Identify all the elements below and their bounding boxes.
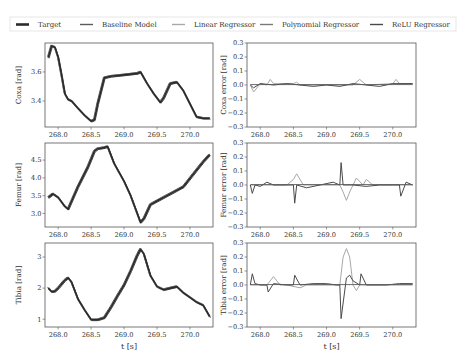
x-tick-label: 269.0 bbox=[317, 231, 336, 239]
y-tick-label: −0.2 bbox=[227, 109, 243, 117]
axes-frame bbox=[45, 43, 213, 127]
y-tick-label: 3 bbox=[37, 253, 41, 261]
series-line bbox=[48, 45, 209, 120]
x-tick-label: 268.0 bbox=[251, 131, 270, 139]
y-tick-label: 3.0 bbox=[31, 210, 42, 218]
x-tick-label: 270.0 bbox=[383, 331, 402, 339]
y-axis-label: Femur error [rad] bbox=[219, 152, 228, 217]
subplot-tibia-error: 268.0268.5269.0269.5270.00.30.20.10.0−0.… bbox=[219, 239, 416, 351]
x-tick-label: 270.0 bbox=[180, 131, 199, 139]
x-tick-label: 268.5 bbox=[82, 331, 101, 339]
y-tick-label: 0.3 bbox=[233, 139, 244, 147]
x-tick-label: 270.0 bbox=[180, 231, 199, 239]
plot-area bbox=[48, 146, 211, 223]
y-tick-label: 0.0 bbox=[233, 181, 244, 189]
x-tick-label: 269.0 bbox=[115, 131, 134, 139]
legend-label: Baseline Model bbox=[102, 21, 157, 29]
series-line bbox=[48, 146, 209, 222]
x-axis-label: t [s] bbox=[121, 342, 137, 351]
y-axis-label: Tibia [rad] bbox=[14, 266, 23, 305]
series-line bbox=[49, 45, 210, 120]
y-tick-label: 0.2 bbox=[233, 253, 244, 261]
x-axis-label: t [s] bbox=[323, 342, 339, 351]
plot-area bbox=[250, 249, 412, 319]
x-tick-label: 269.0 bbox=[115, 231, 134, 239]
y-tick-label: 1 bbox=[37, 316, 41, 324]
y-tick-label: 3.4 bbox=[31, 97, 42, 105]
plot-area bbox=[250, 163, 412, 204]
subplot-tibia: 268.0268.5269.0269.5270.0123Tibia [rad]t… bbox=[14, 243, 213, 351]
y-tick-label: 2 bbox=[37, 284, 41, 292]
x-tick-label: 268.5 bbox=[82, 231, 101, 239]
axes-frame bbox=[45, 143, 213, 227]
y-tick-label: 0.2 bbox=[233, 53, 244, 61]
x-tick-label: 268.0 bbox=[251, 331, 270, 339]
y-tick-label: −0.1 bbox=[227, 195, 243, 203]
target-line bbox=[48, 46, 209, 121]
x-tick-label: 269.0 bbox=[317, 131, 336, 139]
x-tick-label: 268.0 bbox=[49, 231, 68, 239]
y-tick-label: −0.1 bbox=[227, 295, 243, 303]
y-tick-label: 0.0 bbox=[233, 281, 244, 289]
target-line bbox=[48, 147, 209, 223]
series-line bbox=[49, 47, 210, 122]
y-tick-label: 0.1 bbox=[233, 167, 244, 175]
y-tick-label: −0.1 bbox=[227, 95, 243, 103]
y-axis-label: Tibia error [rad] bbox=[219, 255, 228, 315]
x-tick-label: 269.5 bbox=[350, 231, 369, 239]
figure-canvas: TargetBaseline ModelLinear RegressorPoly… bbox=[0, 0, 466, 363]
x-tick-label: 269.5 bbox=[148, 331, 167, 339]
x-tick-label: 269.5 bbox=[148, 131, 167, 139]
y-tick-label: −0.3 bbox=[227, 323, 243, 331]
x-tick-label: 270.0 bbox=[180, 331, 199, 339]
subplots: 268.0268.5269.0269.5270.03.43.6Coxa [rad… bbox=[14, 39, 416, 351]
subplot-femur-error: 268.0268.5269.0269.5270.00.30.20.10.0−0.… bbox=[219, 139, 416, 239]
target-line bbox=[48, 249, 209, 320]
legend-label: Polynomial Regressor bbox=[282, 21, 360, 29]
y-tick-label: 4.5 bbox=[31, 156, 42, 164]
x-tick-label: 270.0 bbox=[383, 231, 402, 239]
x-tick-label: 270.0 bbox=[383, 131, 402, 139]
y-tick-label: 3.5 bbox=[31, 192, 42, 200]
error-line bbox=[250, 174, 412, 201]
y-tick-label: 0.2 bbox=[233, 153, 244, 161]
x-tick-label: 268.5 bbox=[284, 331, 303, 339]
figure: TargetBaseline ModelLinear RegressorPoly… bbox=[0, 0, 466, 363]
x-tick-label: 269.5 bbox=[350, 131, 369, 139]
series-line bbox=[49, 147, 210, 223]
error-line bbox=[250, 163, 412, 204]
x-tick-label: 268.0 bbox=[49, 131, 68, 139]
y-tick-label: 0.3 bbox=[233, 239, 244, 247]
y-axis-label: Coxa [rad] bbox=[14, 66, 23, 105]
y-axis-label: Coxa error [rad] bbox=[219, 55, 228, 115]
y-tick-label: −0.3 bbox=[227, 123, 243, 131]
y-tick-label: 0.1 bbox=[233, 267, 244, 275]
x-tick-label: 268.5 bbox=[284, 131, 303, 139]
x-tick-label: 269.5 bbox=[350, 331, 369, 339]
y-tick-label: −0.3 bbox=[227, 223, 243, 231]
x-tick-label: 269.5 bbox=[148, 231, 167, 239]
x-tick-label: 268.5 bbox=[82, 131, 101, 139]
x-tick-label: 268.0 bbox=[251, 231, 270, 239]
legend-label: ReLU Regressor bbox=[392, 21, 451, 29]
y-tick-label: −0.2 bbox=[227, 309, 243, 317]
y-tick-label: 0.1 bbox=[233, 67, 244, 75]
subplot-coxa-error: 268.0268.5269.0269.5270.00.30.20.10.0−0.… bbox=[219, 39, 416, 139]
x-tick-label: 269.0 bbox=[317, 331, 336, 339]
y-axis-label: Femur [rad] bbox=[14, 163, 23, 207]
axes-frame bbox=[45, 243, 213, 327]
y-tick-label: −0.2 bbox=[227, 209, 243, 217]
plot-area bbox=[250, 79, 412, 92]
legend-label: Linear Regressor bbox=[194, 21, 256, 29]
legend: TargetBaseline ModelLinear RegressorPoly… bbox=[10, 17, 456, 31]
y-tick-label: 3.6 bbox=[31, 68, 42, 76]
x-tick-label: 268.0 bbox=[49, 331, 68, 339]
x-tick-label: 269.0 bbox=[115, 331, 134, 339]
plot-area bbox=[48, 45, 211, 122]
subplot-coxa: 268.0268.5269.0269.5270.03.43.6Coxa [rad… bbox=[14, 43, 213, 139]
plot-area bbox=[48, 248, 211, 320]
series-line bbox=[48, 47, 209, 122]
y-tick-label: 4.0 bbox=[31, 174, 42, 182]
error-line bbox=[250, 274, 412, 319]
y-tick-label: 0.3 bbox=[233, 39, 244, 47]
